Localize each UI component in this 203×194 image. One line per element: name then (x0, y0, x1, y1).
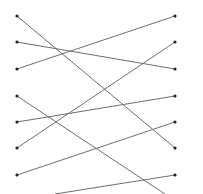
node-dot-L6 (15, 146, 18, 149)
node-dot-R5 (173, 120, 176, 123)
edge-offscreen-R7 (55, 175, 175, 194)
node-dot-L7 (15, 173, 18, 176)
node-dot-L2 (15, 40, 18, 43)
edge-L7-R5 (17, 122, 175, 175)
node-dot-L5 (15, 120, 18, 123)
edge-L5-R4 (17, 96, 175, 122)
node-dot-R4 (173, 94, 176, 97)
edge-L6-R2 (17, 42, 175, 148)
edge-layer (17, 16, 175, 194)
edge-L3-R1 (17, 16, 175, 69)
node-dot-L1 (15, 14, 18, 17)
node-dot-L3 (15, 67, 18, 70)
matching-diagram (0, 0, 203, 194)
node-dot-R6 (173, 146, 176, 149)
edge-L2-R3 (17, 42, 175, 69)
edge-L4-offscreen (17, 96, 165, 194)
node-dot-R1 (173, 14, 176, 17)
edge-L1-R6 (17, 16, 175, 148)
node-dot-R7 (173, 173, 176, 176)
node-dot-L4 (15, 94, 18, 97)
node-dot-R3 (173, 67, 176, 70)
node-dot-R2 (173, 40, 176, 43)
